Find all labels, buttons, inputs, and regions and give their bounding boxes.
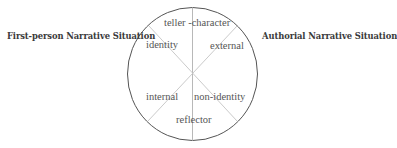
authorial-narrative-situation-label: Authorial Narrative Situation xyxy=(262,31,397,41)
first-person-narrative-situation-label: First-person Narrative Situation xyxy=(7,31,155,41)
segment-label-internal: internal xyxy=(146,92,178,103)
segment-label-teller-character: teller -character xyxy=(164,18,230,29)
segment-label-external: external xyxy=(210,41,244,52)
segment-label-identity: identity xyxy=(146,40,178,51)
segment-label-reflector: reflector xyxy=(176,115,212,126)
segment-label-non-identity: non-identity xyxy=(194,92,245,103)
